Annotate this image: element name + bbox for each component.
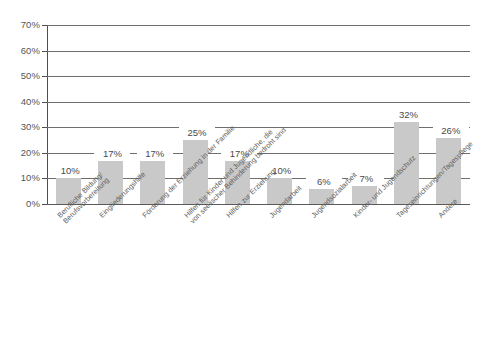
y-axis-tick-label: 40% <box>0 96 40 107</box>
gridline <box>47 25 470 26</box>
y-axis-tick-label: 20% <box>0 147 40 158</box>
y-axis-tick-label: 0% <box>0 198 40 209</box>
bar-value-label: 10% <box>52 165 88 176</box>
bar-chart: 0%10%20%30%40%50%60%70% 10%17%17%25%17%1… <box>0 0 486 350</box>
bar-value-label: 32% <box>391 109 427 120</box>
gridline <box>47 102 470 103</box>
bar-value-label: 17% <box>137 148 173 159</box>
gridline <box>47 76 470 77</box>
gridline <box>47 51 470 52</box>
y-axis-tick-label: 60% <box>0 45 40 56</box>
bar-value-label: 26% <box>433 125 469 136</box>
y-axis-tick-label: 10% <box>0 172 40 183</box>
bar-value-label: 17% <box>94 148 130 159</box>
y-axis-tick-label: 50% <box>0 70 40 81</box>
y-axis-tick-label: 70% <box>0 19 40 30</box>
y-axis-tick-label: 30% <box>0 121 40 132</box>
bar-value-label: 25% <box>179 127 215 138</box>
